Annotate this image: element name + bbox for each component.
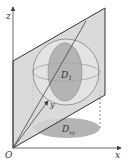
x-axis-label: x — [115, 150, 120, 160]
z-axis-label: z — [5, 11, 11, 21]
origin-label: O — [5, 150, 13, 160]
diagram-figure: z x y O D1 Dxy — [0, 0, 128, 168]
y-axis-label: y — [49, 100, 55, 109]
